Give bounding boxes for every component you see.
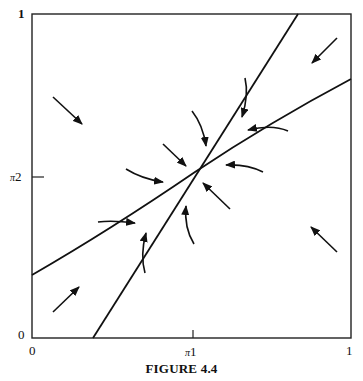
x-axis-label-pi1: π1 — [185, 345, 197, 358]
arrow-center-nw — [163, 144, 186, 166]
y-min-label: 0 — [18, 328, 25, 341]
arrow-upper-horizontal — [248, 127, 288, 131]
x-min-label: 0 — [29, 344, 36, 357]
arrow-upper-right — [312, 38, 337, 63]
y-max-label: 1 — [18, 7, 25, 20]
arrow-curve-left — [126, 169, 163, 182]
steep-isocline — [93, 14, 298, 338]
arrow-lower-right — [311, 227, 337, 252]
arrow-curve-right — [226, 165, 263, 172]
arrow-upper-left — [53, 97, 82, 124]
y-axis-label-pi2: π2 — [10, 170, 22, 183]
arrow-lower-left — [53, 287, 79, 312]
x-max-label: 1 — [346, 344, 353, 357]
phase-diagram — [0, 0, 363, 381]
arrow-curve-bottom — [186, 206, 194, 244]
pi-subscript: 2 — [15, 169, 22, 184]
arrow-center-se — [203, 183, 230, 209]
plot-frame — [32, 14, 351, 338]
arrow-lower-vertical — [143, 233, 146, 273]
figure-caption: FIGURE 4.4 — [0, 361, 363, 377]
pi-subscript: 1 — [190, 344, 197, 359]
arrow-curve-top — [192, 111, 206, 146]
shallow-isocline — [32, 79, 351, 275]
